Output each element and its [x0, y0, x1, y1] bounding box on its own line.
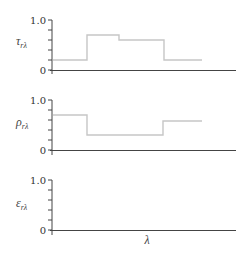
ylabel-rho: ρrλ	[15, 115, 29, 131]
ytick-label-zero: 0	[40, 145, 46, 156]
ytick-label-top: 1.0	[30, 175, 46, 186]
ytick-label-zero: 0	[40, 65, 46, 76]
panel-tau: 1.0 0 τrλ	[16, 15, 236, 76]
ytick-label-top: 1.0	[30, 15, 46, 26]
y-ticks	[48, 100, 52, 150]
panel-rho: 1.0 0 ρrλ	[15, 95, 236, 156]
series-rho	[53, 115, 202, 135]
panel-epsilon: 1.0 0 εrλ λ	[16, 175, 236, 248]
ylabel-epsilon: εrλ	[16, 196, 28, 212]
xlabel-lambda: λ	[143, 233, 149, 247]
series-tau	[53, 35, 202, 60]
ylabel-tau: τrλ	[16, 34, 27, 50]
chart-figure: 1.0 0 τrλ 1.0 0 ρrλ 1.	[0, 0, 247, 263]
ytick-label-top: 1.0	[30, 95, 46, 106]
y-ticks	[48, 180, 52, 230]
y-ticks	[48, 20, 52, 70]
ytick-label-zero: 0	[40, 225, 46, 236]
